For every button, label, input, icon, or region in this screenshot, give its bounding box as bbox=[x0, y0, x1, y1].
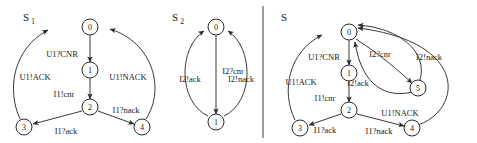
transition-label: I1?ack bbox=[55, 126, 78, 136]
state-node-label: 4 bbox=[410, 124, 414, 133]
state-node-label: 0 bbox=[214, 23, 218, 32]
state-node-label: 1 bbox=[214, 118, 218, 127]
state-node-label: 1 bbox=[88, 66, 92, 75]
transition-edge bbox=[309, 114, 341, 125]
state-node-label: 4 bbox=[140, 123, 144, 132]
panel-title: S bbox=[172, 11, 178, 23]
panel-title-subscript: 1 bbox=[31, 17, 35, 26]
state-machine-figure: U1?CNRI1!cnrI1?ackI1?nackU1!ACKU1!NACK01… bbox=[0, 0, 477, 143]
transition-label: I2?cnr bbox=[369, 49, 391, 59]
panel-s2: I2?cnrI2!ackI2!nack01S2 bbox=[172, 11, 255, 130]
state-node-label: 3 bbox=[22, 123, 26, 132]
transition-label: I1?ack bbox=[314, 125, 337, 135]
transition-label: I2!ack bbox=[179, 74, 201, 84]
transition-label: U1!ACK bbox=[19, 72, 51, 82]
transition-label: U1?CNR bbox=[46, 49, 78, 59]
transition-label: U1!ACK bbox=[285, 77, 317, 87]
figure-canvas: U1?CNRI1!cnrI1?ackI1?nackU1!ACKU1!NACK01… bbox=[0, 0, 477, 143]
transition-label: I1!cnr bbox=[54, 89, 75, 99]
panel-title: S bbox=[281, 11, 287, 23]
panel-title: S bbox=[23, 11, 29, 23]
state-node-label: 5 bbox=[416, 84, 420, 93]
transition-label: I2!nack bbox=[228, 74, 255, 84]
transition-label: I2!nack bbox=[416, 52, 443, 62]
transition-label: U1!NACK bbox=[109, 72, 147, 82]
transition-label: I1?nack bbox=[113, 105, 141, 115]
state-node-label: 0 bbox=[88, 23, 92, 32]
transition-edge bbox=[356, 39, 412, 83]
state-node-label: 3 bbox=[298, 124, 302, 133]
panel-s: U1?CNRI1!cnrI1?ackI1?nackU1!ACKU1!NACKI2… bbox=[281, 11, 448, 136]
panel-s1: U1?CNRI1!cnrI1?ackI1?nackU1!ACKU1!NACK01… bbox=[13, 11, 155, 136]
state-node-label: 2 bbox=[347, 106, 351, 115]
transition-label: U1!NACK bbox=[381, 108, 419, 118]
transition-label: U1?CNR bbox=[308, 52, 340, 62]
transition-label: I1!cnr bbox=[315, 93, 336, 103]
state-node-label: 1 bbox=[347, 69, 351, 78]
state-node-label: 0 bbox=[347, 28, 351, 37]
panel-title-subscript: 2 bbox=[180, 17, 184, 26]
transition-label: I1?nack bbox=[366, 126, 394, 136]
transition-edge bbox=[33, 111, 82, 124]
state-node-label: 2 bbox=[88, 103, 92, 112]
